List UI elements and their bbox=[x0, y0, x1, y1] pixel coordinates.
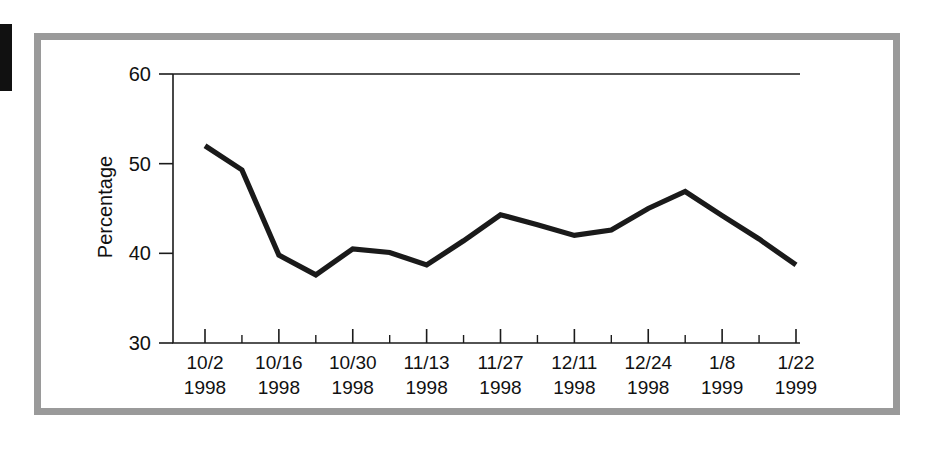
x-tick-label-date: 10/2 bbox=[187, 352, 224, 373]
x-tick-label-year: 1999 bbox=[775, 377, 817, 398]
x-tick-label-date: 1/8 bbox=[709, 352, 735, 373]
x-tick-label-date: 1/22 bbox=[778, 352, 815, 373]
x-tick-label-year: 1998 bbox=[627, 377, 669, 398]
x-tick-label-date: 10/16 bbox=[255, 352, 303, 373]
y-tick-label: 40 bbox=[129, 242, 151, 264]
y-axis-ticks bbox=[159, 74, 173, 343]
x-axis-ticks bbox=[205, 329, 796, 343]
x-tick-label-date: 10/30 bbox=[329, 352, 377, 373]
y-tick-label: 50 bbox=[129, 153, 151, 175]
y-axis-title: Percentage bbox=[94, 156, 116, 258]
chart-axes bbox=[173, 74, 800, 343]
figure-container: 60504030 10/2199810/16199810/30199811/13… bbox=[0, 0, 934, 451]
x-axis-tick-labels: 10/2199810/16199810/30199811/13199811/27… bbox=[184, 352, 817, 398]
y-tick-label: 30 bbox=[129, 332, 151, 354]
x-tick-label-year: 1998 bbox=[479, 377, 521, 398]
x-tick-label-year: 1998 bbox=[184, 377, 226, 398]
x-tick-label-date: 11/27 bbox=[477, 352, 523, 373]
x-tick-label-year: 1998 bbox=[258, 377, 300, 398]
y-tick-label: 60 bbox=[129, 63, 151, 85]
data-series-line bbox=[205, 146, 796, 275]
x-tick-label-date: 12/24 bbox=[624, 352, 672, 373]
y-axis-tick-labels: 60504030 bbox=[129, 63, 151, 354]
x-tick-label-year: 1999 bbox=[701, 377, 743, 398]
x-tick-label-year: 1998 bbox=[553, 377, 595, 398]
x-tick-label-date: 11/13 bbox=[404, 352, 450, 373]
x-tick-label-year: 1998 bbox=[405, 377, 447, 398]
axis-lines bbox=[173, 74, 800, 343]
x-tick-label-date: 12/11 bbox=[551, 352, 597, 373]
line-chart: 60504030 10/2199810/16199810/30199811/13… bbox=[0, 0, 934, 451]
x-tick-label-year: 1998 bbox=[332, 377, 374, 398]
